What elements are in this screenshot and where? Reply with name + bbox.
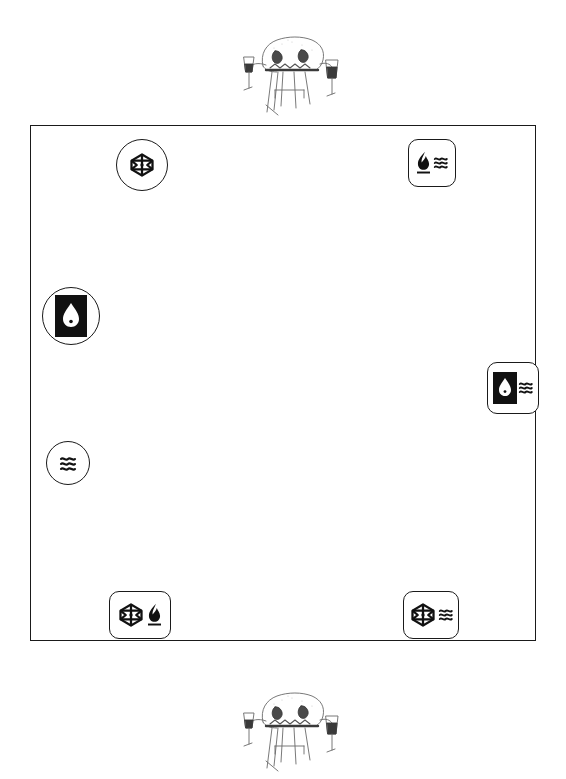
marker-icons xyxy=(117,601,163,629)
cube-icon xyxy=(409,601,437,629)
flame-icon xyxy=(146,602,163,628)
marker-icons xyxy=(128,151,156,179)
marker-water-left[interactable] xyxy=(42,287,100,345)
hand-drawn-sketch-bottom xyxy=(222,676,352,776)
cube-icon xyxy=(128,151,156,179)
water-drop-inverted-icon xyxy=(55,295,87,337)
marker-icons xyxy=(493,372,534,404)
marker-icons xyxy=(415,150,449,176)
room-boundary xyxy=(30,125,536,641)
marker-icons xyxy=(55,295,87,337)
marker-gas-heat-bottom-left[interactable] xyxy=(109,591,171,639)
marker-icons xyxy=(58,453,78,473)
water-drop-inverted-icon xyxy=(493,372,517,404)
marker-flame-ventilation-top-right[interactable] xyxy=(408,139,456,187)
cube-icon xyxy=(117,601,145,629)
waves-icon xyxy=(58,453,78,473)
hand-drawn-sketch-top xyxy=(222,20,352,120)
marker-ventilation-left[interactable] xyxy=(46,441,90,485)
waves-icon xyxy=(438,606,454,624)
waves-icon xyxy=(433,154,449,172)
flame-icon xyxy=(415,150,432,176)
waves-icon xyxy=(518,379,534,397)
marker-gas-ventilation-bottom-right[interactable] xyxy=(403,591,459,639)
marker-cube-top[interactable] xyxy=(116,139,168,191)
figure-canvas xyxy=(0,0,566,779)
marker-icons xyxy=(409,601,454,629)
marker-water-ventilation-right[interactable] xyxy=(487,362,539,414)
